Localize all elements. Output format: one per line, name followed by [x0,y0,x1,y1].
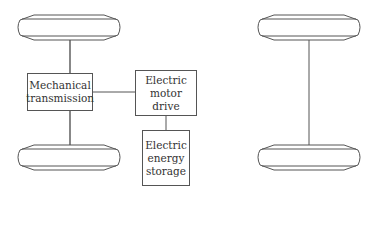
electric-motor-drive-block: Electric motor drive [135,70,197,116]
mechanical-transmission-block: Mechanical transmission [27,73,93,111]
electric-motor-drive-label: Electric motor drive [145,74,187,113]
mechanical-transmission-label: Mechanical transmission [26,79,94,105]
electric-energy-storage-block: Electric energy storage [142,130,190,186]
electric-energy-storage-label: Electric energy storage [145,139,187,178]
